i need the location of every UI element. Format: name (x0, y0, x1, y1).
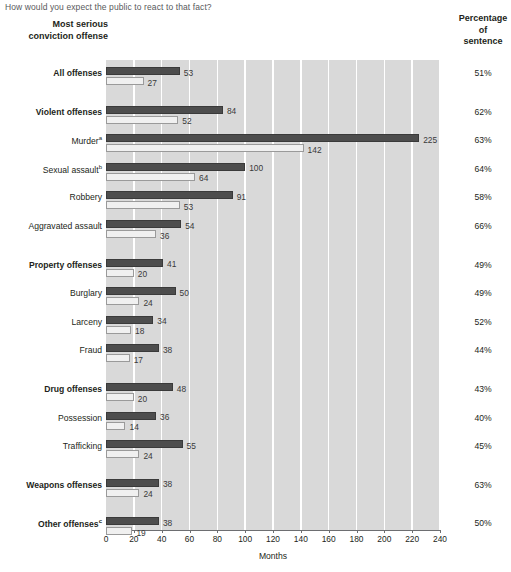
row-label: Possession (0, 413, 102, 423)
bar-value-label: 100 (249, 163, 263, 173)
gridline (384, 60, 386, 530)
bar-time-served (106, 297, 139, 305)
row-label-text: Sexual assault (43, 165, 99, 175)
gridline (272, 60, 274, 530)
bar-value-label: 20 (138, 269, 147, 279)
bar-time-served (106, 354, 130, 362)
x-axis-tick (412, 530, 413, 533)
bar-sentence-imposed (106, 191, 233, 199)
bar-time-served (106, 116, 178, 124)
bar-time-served (106, 77, 144, 85)
bar-value-label: 55 (187, 441, 196, 451)
bar-value-label: 38 (163, 479, 172, 489)
row-label: Sexual assaultb (0, 164, 102, 175)
x-axis-tick-label: 0 (91, 534, 121, 544)
bar-value-label: 48 (177, 384, 186, 394)
bar-value-label: 142 (308, 145, 322, 155)
percentage-of-sentence-value: 63% (455, 135, 511, 145)
bar-time-served (106, 489, 139, 497)
row-label-text: Drug offenses (44, 384, 102, 394)
bar-value-label: 17 (134, 355, 143, 365)
bar-value-label: 34 (157, 316, 166, 326)
row-label-text: All offenses (53, 68, 102, 78)
bar-value-label: 24 (143, 451, 152, 461)
row-label-text: Aggravated assault (28, 221, 102, 231)
row-label-text: Violent offenses (36, 107, 102, 117)
x-axis-tick-label: 200 (369, 534, 399, 544)
row-label-text: Possession (58, 413, 102, 423)
x-axis-tick (329, 530, 330, 533)
percentage-of-sentence-value: 63% (455, 480, 511, 490)
bar-sentence-imposed (106, 517, 159, 525)
bar-value-label: 41 (167, 259, 176, 269)
percentage-of-sentence-value: 49% (455, 288, 511, 298)
bar-time-served (106, 173, 195, 181)
row-label-text: Robbery (70, 192, 102, 202)
bar-value-label: 27 (148, 78, 157, 88)
bar-sentence-imposed (106, 316, 153, 324)
row-label: Burglary (0, 288, 102, 298)
bar-sentence-imposed (106, 220, 181, 228)
bar-time-served (106, 144, 304, 152)
percentage-of-sentence-value: 51% (455, 68, 511, 78)
x-axis-tick-label: 180 (342, 534, 372, 544)
question-text: How would you expect the public to react… (5, 2, 212, 12)
percentage-of-sentence-value: 62% (455, 107, 511, 117)
bar-value-label: 53 (184, 202, 193, 212)
row-label: Murdera (0, 135, 102, 146)
x-axis-tick (273, 530, 274, 533)
bar-value-label: 38 (163, 518, 172, 528)
bar-value-label: 19 (136, 528, 145, 538)
bar-value-label: 14 (129, 422, 138, 432)
bar-time-served (106, 450, 139, 458)
bar-time-served (106, 527, 132, 535)
x-axis-tick (245, 530, 246, 533)
bar-sentence-imposed (106, 134, 419, 142)
gridline (244, 60, 246, 530)
bar-time-served (106, 201, 180, 209)
footnote-marker: a (99, 135, 102, 141)
bar-value-label: 18 (135, 326, 144, 336)
row-label: Weapons offenses (0, 480, 102, 490)
x-axis-tick (190, 530, 191, 533)
bar-value-label: 64 (199, 173, 208, 183)
x-axis-tick (134, 530, 135, 533)
x-axis-tick-label: 160 (314, 534, 344, 544)
bar-value-label: 84 (227, 106, 236, 116)
bar-sentence-imposed (106, 440, 183, 448)
bar-value-label: 52 (182, 116, 191, 126)
bar-time-served (106, 422, 125, 430)
x-axis-tick-label: 80 (202, 534, 232, 544)
bar-value-label: 24 (143, 298, 152, 308)
percentage-of-sentence-value: 44% (455, 345, 511, 355)
row-label: All offenses (0, 68, 102, 78)
bar-sentence-imposed (106, 383, 173, 391)
gridline (328, 60, 330, 530)
footnote-marker: c (99, 518, 102, 524)
bar-sentence-imposed (106, 344, 159, 352)
x-axis-tick (384, 530, 385, 533)
gridline (217, 60, 219, 530)
row-label-text: Property offenses (29, 260, 102, 270)
gridline (439, 60, 441, 530)
chart-page: How would you expect the public to react… (0, 0, 511, 572)
percentage-of-sentence-value: 58% (455, 192, 511, 202)
bar-value-label: 50 (180, 288, 189, 298)
percentage-of-sentence-value: 66% (455, 221, 511, 231)
bar-time-served (106, 393, 134, 401)
x-axis-tick-label: 140 (286, 534, 316, 544)
bar-sentence-imposed (106, 163, 245, 171)
bar-value-label: 36 (160, 412, 169, 422)
heading-line: Percentage (455, 13, 511, 25)
percentage-of-sentence-value: 49% (455, 260, 511, 270)
bar-sentence-imposed (106, 67, 180, 75)
bar-sentence-imposed (106, 479, 159, 487)
row-label-text: Fraud (80, 345, 102, 355)
row-label-text: Trafficking (63, 441, 102, 451)
heading-line: conviction offense (0, 31, 108, 43)
heading-line: Most serious (0, 19, 108, 31)
row-label: Drug offenses (0, 384, 102, 394)
x-axis-tick-label: 100 (230, 534, 260, 544)
row-label-text: Other offenses (38, 519, 99, 529)
x-axis-tick-label: 40 (147, 534, 177, 544)
